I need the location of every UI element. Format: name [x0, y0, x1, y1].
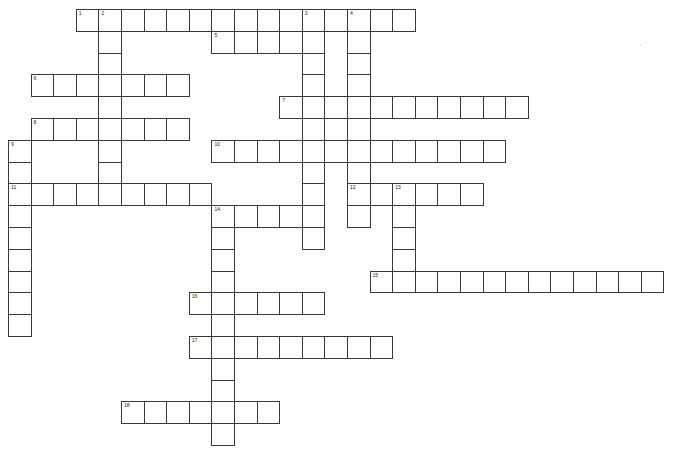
grid-cell[interactable]: [302, 205, 326, 228]
grid-cell[interactable]: [324, 140, 348, 163]
grid-cell[interactable]: [279, 205, 303, 228]
grid-cell[interactable]: [437, 271, 461, 294]
grid-cell[interactable]: [347, 205, 371, 228]
grid-cell[interactable]: [53, 74, 77, 97]
grid-cell[interactable]: 3: [302, 9, 326, 32]
grid-cell[interactable]: [98, 96, 122, 119]
grid-cell[interactable]: [370, 336, 394, 359]
grid-cell[interactable]: [347, 118, 371, 141]
grid-cell[interactable]: [234, 140, 258, 163]
grid-cell[interactable]: 1: [76, 9, 100, 32]
grid-cell[interactable]: [211, 292, 235, 315]
grid-cell[interactable]: [302, 292, 326, 315]
grid-cell[interactable]: [98, 53, 122, 76]
grid-cell[interactable]: 18: [121, 401, 145, 424]
grid-cell[interactable]: [279, 9, 303, 32]
grid-cell[interactable]: [483, 140, 507, 163]
grid-cell[interactable]: 14: [211, 205, 235, 228]
grid-cell[interactable]: [121, 74, 145, 97]
grid-cell[interactable]: [189, 183, 213, 206]
grid-cell[interactable]: [550, 271, 574, 294]
grid-cell[interactable]: [302, 140, 326, 163]
grid-cell[interactable]: [392, 227, 416, 250]
grid-cell[interactable]: 15: [370, 271, 394, 294]
grid-cell[interactable]: [98, 118, 122, 141]
grid-cell[interactable]: [279, 336, 303, 359]
grid-cell[interactable]: [370, 9, 394, 32]
grid-cell[interactable]: [98, 162, 122, 185]
grid-cell[interactable]: [121, 118, 145, 141]
grid-cell[interactable]: [53, 183, 77, 206]
grid-cell[interactable]: [144, 9, 168, 32]
grid-cell[interactable]: 5: [211, 31, 235, 54]
grid-cell[interactable]: 13: [392, 183, 416, 206]
grid-cell[interactable]: [460, 183, 484, 206]
grid-cell[interactable]: [618, 271, 642, 294]
grid-cell[interactable]: [279, 292, 303, 315]
grid-cell[interactable]: [415, 271, 439, 294]
grid-cell[interactable]: [437, 140, 461, 163]
grid-cell[interactable]: [460, 271, 484, 294]
grid-cell[interactable]: [415, 96, 439, 119]
grid-cell[interactable]: [144, 118, 168, 141]
grid-cell[interactable]: [234, 9, 258, 32]
grid-cell[interactable]: [166, 401, 190, 424]
grid-cell[interactable]: [98, 183, 122, 206]
grid-cell[interactable]: [302, 96, 326, 119]
grid-cell[interactable]: [641, 271, 665, 294]
grid-cell[interactable]: 8: [31, 118, 55, 141]
grid-cell[interactable]: [189, 9, 213, 32]
grid-cell[interactable]: [347, 31, 371, 54]
grid-cell[interactable]: [483, 271, 507, 294]
grid-cell[interactable]: 6: [31, 74, 55, 97]
grid-cell[interactable]: [98, 140, 122, 163]
grid-cell[interactable]: [573, 271, 597, 294]
grid-cell[interactable]: [234, 31, 258, 54]
grid-cell[interactable]: [76, 74, 100, 97]
grid-cell[interactable]: [302, 227, 326, 250]
grid-cell[interactable]: [347, 53, 371, 76]
grid-cell[interactable]: [528, 271, 552, 294]
grid-cell[interactable]: [324, 9, 348, 32]
grid-cell[interactable]: [8, 227, 32, 250]
grid-cell[interactable]: 16: [189, 292, 213, 315]
grid-cell[interactable]: [596, 271, 620, 294]
grid-cell[interactable]: [257, 336, 281, 359]
grid-cell[interactable]: [8, 314, 32, 337]
grid-cell[interactable]: 4: [347, 9, 371, 32]
grid-cell[interactable]: [505, 271, 529, 294]
grid-cell[interactable]: [76, 183, 100, 206]
grid-cell[interactable]: [347, 162, 371, 185]
grid-cell[interactable]: [76, 118, 100, 141]
grid-cell[interactable]: [302, 53, 326, 76]
grid-cell[interactable]: 9: [8, 140, 32, 163]
grid-cell[interactable]: [370, 140, 394, 163]
grid-cell[interactable]: [189, 401, 213, 424]
grid-cell[interactable]: [392, 249, 416, 272]
grid-cell[interactable]: [8, 249, 32, 272]
grid-cell[interactable]: [279, 140, 303, 163]
grid-cell[interactable]: [257, 205, 281, 228]
grid-cell[interactable]: [144, 183, 168, 206]
grid-cell[interactable]: [121, 9, 145, 32]
grid-cell[interactable]: [211, 314, 235, 337]
grid-cell[interactable]: 11: [8, 183, 32, 206]
grid-cell[interactable]: [53, 118, 77, 141]
grid-cell[interactable]: [302, 183, 326, 206]
grid-cell[interactable]: [8, 162, 32, 185]
grid-cell[interactable]: [392, 140, 416, 163]
grid-cell[interactable]: [211, 9, 235, 32]
grid-cell[interactable]: [257, 140, 281, 163]
grid-cell[interactable]: [144, 401, 168, 424]
grid-cell[interactable]: [31, 183, 55, 206]
grid-cell[interactable]: [166, 74, 190, 97]
grid-cell[interactable]: [347, 74, 371, 97]
grid-cell[interactable]: [437, 96, 461, 119]
grid-cell[interactable]: [234, 401, 258, 424]
grid-cell[interactable]: [324, 96, 348, 119]
grid-cell[interactable]: [460, 96, 484, 119]
grid-cell[interactable]: [211, 380, 235, 403]
grid-cell[interactable]: [166, 9, 190, 32]
grid-cell[interactable]: 10: [211, 140, 235, 163]
grid-cell[interactable]: [347, 336, 371, 359]
